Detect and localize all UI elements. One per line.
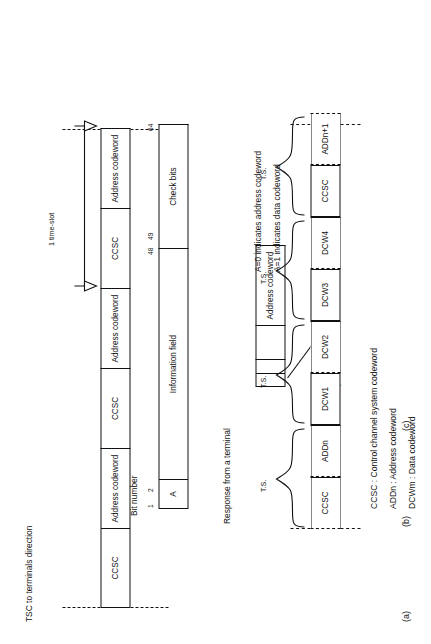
panel-c-brace-3-icon [272,113,306,217]
timeslot-label: 1 time-slot [46,213,55,246]
panel-b-field-check-label: Check bits [168,167,177,205]
panel-b-field-a: A [158,479,188,509]
legend-item-dcwm: DCWm : Data codeword [406,348,416,509]
panel-c-cell-6: CCSC [310,165,340,217]
panel-a-cell-1: Address codeword [100,448,130,528]
panel-a-cell-5-label: Address codeword [110,135,119,203]
panel-c-ts-label-3: T.S. [259,168,267,180]
panel-a-cell-0: CCSC [100,528,130,608]
panel-c-ts-label-2: T.S. [259,272,267,284]
bit-tick-2: 2 [146,488,153,492]
panel-b-response-caption: Response from a terminal [222,428,232,524]
panel-c-brace-2-icon [272,217,306,321]
timeslot-arrow [60,120,100,292]
panel-c-dash-left-bottom [340,528,360,529]
panel-c-cell-1-label: ADDn [320,440,329,462]
bit-tick-1: 1 [146,504,153,508]
panel-a-cell-5: Address codeword [100,128,130,208]
panel-c-brace-0-icon [272,425,306,529]
panel-c-cell-1: ADDn [310,425,340,477]
panel-b-label: (b) [400,516,410,527]
panel-a-cell-2-label: CCSC [110,397,119,420]
panel-c-cell-0: CCSC [310,477,340,529]
panel-c-cell-5: DCW4 [310,217,340,269]
panel-c-brace-1-icon [272,321,306,425]
panel-b-field-a-label: A [168,491,177,496]
panel-c-cell-0-label: CCSC [320,491,329,514]
bit-tick-64: 64 [146,124,153,131]
panel-a-cell-3: Address codeword [100,288,130,368]
panel-c-cell-4: DCW3 [310,269,340,321]
panel-c-cell-7: ADDn+1 [310,113,340,165]
panel-c-ts-label-0: T.S. [259,480,267,492]
panel-c-cell-4-label: DCW3 [320,283,329,307]
panel-a-cell-4: CCSC [100,208,130,288]
panel-c-cell-2-label: DCW1 [320,387,329,411]
panel-b-field-information: Information field [158,248,188,479]
panel-a-cell-0-label: CCSC [110,556,119,579]
legend-item-addn: ADDn : Address codeword [387,348,397,509]
panel-a-dash-left-bottom [130,607,168,608]
legend: CCSC : Control channel system codeword A… [368,348,425,509]
panel-a-dash-left-top [62,607,100,608]
panel-c-cell-7-label: ADDn+1 [320,123,329,154]
panel-c-cell-5-label: DCW4 [320,231,329,255]
legend-item-ccsc: CCSC : Control channel system codeword [368,348,378,509]
panel-c-cell-2: DCW1 [310,373,340,425]
panel-a-cell-3-label: Address codeword [110,295,119,363]
bit-tick-48: 48 [146,248,153,255]
panel-c-ts-label-1: T.S. [259,376,267,388]
panel-a-caption: TSC to terminals direction [24,526,34,622]
figure-canvas: TSC to terminals direction (a) CCSC Addr… [0,0,431,644]
panel-c-cell-3: DCW2 [310,321,340,373]
panel-a-cell-1-label: Address codeword [110,455,119,523]
panel-a-cell-4-label: CCSC [110,237,119,260]
panel-b-bitnumber-label: Bit number [129,476,139,517]
panel-c-cell-6-label: CCSC [320,179,329,202]
panel-a-cell-2: CCSC [100,368,130,448]
panel-c-dash-right-bottom [340,124,360,125]
panel-c-cell-3-label: DCW2 [320,335,329,359]
panel-b-field-information-label: Information field [168,335,177,393]
panel-a-label: (a) [400,611,410,622]
panel-b-field-check: Check bits [158,124,188,248]
bit-tick-49: 49 [146,233,153,240]
